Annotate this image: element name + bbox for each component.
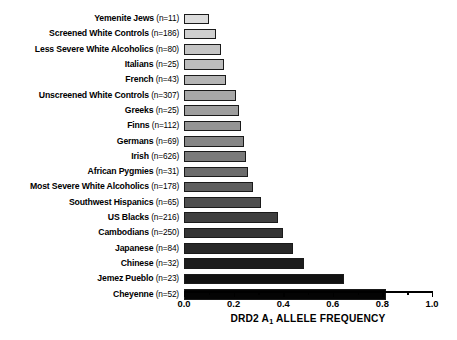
- bar: [184, 212, 278, 223]
- category-sample-size: (n=84): [156, 243, 179, 253]
- x-tick-major: [432, 291, 433, 297]
- bar: [184, 258, 304, 269]
- bar-category-label: Screened White Controls (n=186): [0, 28, 179, 38]
- bar-category-label: Most Severe White Alcoholics (n=178): [0, 181, 179, 191]
- category-name: Irish: [131, 151, 151, 161]
- bar-row: Germans (n=69): [184, 134, 432, 149]
- category-sample-size: (n=11): [156, 13, 179, 23]
- bar-category-label: Irish (n=626): [0, 151, 179, 161]
- category-sample-size: (n=69): [156, 136, 179, 146]
- category-sample-size: (n=186): [151, 28, 179, 38]
- category-name: Cheyenne: [113, 289, 156, 299]
- x-tick-label: 0.4: [277, 298, 290, 309]
- bar-row: Unscreened White Controls (n=307): [184, 89, 432, 104]
- x-tick-major: [283, 291, 284, 297]
- x-tick-minor: [308, 291, 309, 295]
- bar: [184, 228, 283, 239]
- x-tick-label: 0.6: [326, 298, 339, 309]
- plot-area: Yemenite Jews (n=11)Screened White Contr…: [184, 12, 432, 290]
- bar-row: US Blacks (n=216): [184, 211, 432, 226]
- category-name: French: [125, 74, 155, 84]
- bar: [184, 274, 344, 285]
- bar-category-label: Japanese (n=84): [0, 243, 179, 253]
- category-name: Jemez Pueblo: [97, 273, 155, 283]
- bar: [184, 105, 239, 116]
- category-name: Greeks: [125, 105, 156, 115]
- bar-category-label: Italians (n=25): [0, 59, 179, 69]
- category-sample-size: (n=25): [156, 105, 179, 115]
- category-name: Southwest Hispanics: [69, 197, 156, 207]
- bar: [184, 14, 209, 25]
- bar-row: Less Severe White Alcoholics (n=80): [184, 43, 432, 58]
- bar-row: Cambodians (n=250): [184, 226, 432, 241]
- bar-category-label: Germans (n=69): [0, 136, 179, 146]
- bar-row: Finns (n=112): [184, 119, 432, 134]
- category-name: Less Severe White Alcoholics: [35, 44, 156, 54]
- bar: [184, 29, 216, 40]
- x-tick-label: 1.0: [425, 298, 438, 309]
- bar-category-label: Finns (n=112): [0, 120, 179, 130]
- category-sample-size: (n=65): [156, 197, 179, 207]
- category-sample-size: (n=216): [151, 212, 179, 222]
- category-sample-size: (n=178): [151, 181, 179, 191]
- axis-title-suffix: ALLELE FREQUENCY: [273, 313, 385, 324]
- category-sample-size: (n=250): [151, 227, 179, 237]
- bar: [184, 121, 241, 132]
- category-name: Italians: [125, 59, 156, 69]
- bar: [184, 75, 226, 86]
- category-sample-size: (n=31): [156, 166, 179, 176]
- category-sample-size: (n=23): [156, 273, 179, 283]
- category-name: Most Severe White Alcoholics: [30, 181, 151, 191]
- bar-row: Jemez Pueblo (n=23): [184, 272, 432, 287]
- bar: [184, 167, 248, 178]
- bar-category-label: Less Severe White Alcoholics (n=80): [0, 44, 179, 54]
- category-name: Cambodians: [98, 227, 151, 237]
- bar-category-label: Chinese (n=32): [0, 258, 179, 268]
- category-name: Finns: [127, 120, 152, 130]
- category-name: Yemenite Jews: [94, 13, 156, 23]
- axis-title-subscript: 1: [269, 317, 273, 326]
- bar-category-label: Cambodians (n=250): [0, 227, 179, 237]
- bar-row: Southwest Hispanics (n=65): [184, 196, 432, 211]
- category-sample-size: (n=80): [156, 44, 179, 54]
- bar-row: Most Severe White Alcoholics (n=178): [184, 180, 432, 195]
- category-name: Screened White Controls: [49, 28, 151, 38]
- bar-row: Greeks (n=25): [184, 104, 432, 119]
- x-tick-minor: [407, 291, 408, 295]
- x-axis-title: DRD2 A1 ALLELE FREQUENCY: [184, 313, 432, 324]
- bar-category-label: Unscreened White Controls (n=307): [0, 90, 179, 100]
- bar-row: Cheyenne (n=52): [184, 287, 432, 302]
- axis-title-prefix: DRD2 A: [230, 313, 269, 324]
- bar: [184, 59, 224, 70]
- category-name: Japanese: [115, 243, 156, 253]
- category-name: US Blacks: [108, 212, 151, 222]
- bar-row: Chinese (n=32): [184, 257, 432, 272]
- bar-category-label: Greeks (n=25): [0, 105, 179, 115]
- x-tick-label: 0.8: [376, 298, 389, 309]
- bar-row: Japanese (n=84): [184, 242, 432, 257]
- category-sample-size: (n=43): [156, 74, 179, 84]
- bar: [184, 44, 221, 55]
- bar: [184, 182, 253, 193]
- category-sample-size: (n=25): [156, 59, 179, 69]
- category-name: Unscreened White Controls: [39, 90, 151, 100]
- category-name: Chinese: [121, 258, 156, 268]
- category-name: African Pygmies: [88, 166, 156, 176]
- bar-category-label: Jemez Pueblo (n=23): [0, 273, 179, 283]
- x-tick-label: 0.2: [227, 298, 240, 309]
- x-tick-minor: [209, 291, 210, 295]
- x-tick-major: [234, 291, 235, 297]
- bar-row: French (n=43): [184, 73, 432, 88]
- x-tick-major: [382, 291, 383, 297]
- bar-row: African Pygmies (n=31): [184, 165, 432, 180]
- x-tick-label: 0.0: [177, 298, 190, 309]
- x-tick-major: [333, 291, 334, 297]
- bar: [184, 151, 246, 162]
- x-tick-minor: [258, 291, 259, 295]
- bar-category-label: Yemenite Jews (n=11): [0, 13, 179, 23]
- x-tick-minor: [358, 291, 359, 295]
- bar: [184, 90, 236, 101]
- category-sample-size: (n=112): [152, 120, 179, 130]
- bar-category-label: African Pygmies (n=31): [0, 166, 179, 176]
- bar: [184, 197, 261, 208]
